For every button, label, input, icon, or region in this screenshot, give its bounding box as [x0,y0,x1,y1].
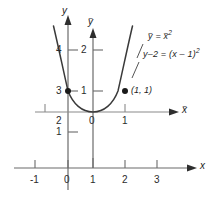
graph-canvas [0,0,223,203]
outer-y-tick-2: 2 [56,116,62,126]
inner-y-axis [90,28,104,168]
outer-y-tick-4: 4 [56,45,62,55]
equation-leader-lines [132,44,143,78]
inner-x-tick-0: 0 [89,116,95,126]
outer-x-tick-3: 3 [154,175,160,185]
outer-x-axis [14,158,197,172]
inner-y-tick-2: 2 [81,45,87,55]
outer-x-tick-0: 0 [64,175,70,185]
inner-x-axis [35,104,179,116]
eq1-exponent: 2 [168,29,172,36]
eq1-lhs-accent: ~ [148,30,153,38]
inner-y-axis-label: ~ y [88,17,93,27]
eq1-rhs-accent: ~ [163,30,168,38]
inner-x-accent: ~ [182,103,187,111]
point-label-1-1: (1, 1) [131,86,152,95]
outer-y-axis [65,15,79,190]
outer-x-tick-1: 1 [90,175,96,185]
inner-y-tick-1: 1 [81,86,87,96]
inner-y-accent: ~ [88,15,93,23]
inner-x-axis-label: ~ x [182,105,187,115]
outer-y-tick-3: 3 [56,86,62,96]
eq1-equals: = [155,31,160,41]
equation-label-2: y–2 = (x – 1)2 [143,48,200,59]
math-graph-figure: y x ~ y ~ x 4 3 2 1 2 1 0 1 -1 0 1 2 3 ~… [0,0,223,203]
eq2-exponent: 2 [196,47,200,54]
outer-y-tick-1: 1 [56,127,62,137]
inner-x-tick-1: 1 [122,116,128,126]
point-marker-left [65,88,71,94]
eq2-body: –2 = (x – 1) [148,49,196,59]
outer-x-tick-neg1: -1 [30,175,39,185]
point-marker-right [122,88,128,94]
outer-x-axis-label: x [200,161,205,171]
outer-y-axis-label: y [62,6,67,16]
outer-x-tick-2: 2 [122,175,128,185]
equation-label-1: ~ y = ~ x 2 [148,30,172,41]
